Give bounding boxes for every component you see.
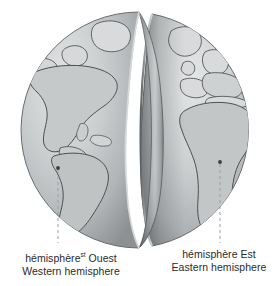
western-label-french: hémisphèrest Ouest [2,248,140,265]
western-hemisphere-marker [56,166,60,170]
western-label-french-suffix: Ouest [89,252,117,264]
landmass-greenland-west [91,21,130,52]
eastern-label-french: hémisphère Est [160,248,278,261]
split-globe-figure: hémisphèrest Ouest Western hemisphere hé… [0,0,279,286]
western-label-french-prefix: hémisphère [25,252,80,264]
globe-illustration [0,0,279,286]
western-hemisphere-label: hémisphèrest Ouest Western hemisphere [2,248,140,278]
western-hemisphere [21,12,139,248]
landmass-scandinavia [202,50,228,75]
eastern-hemisphere-label: hémisphère Est Eastern hemisphere [160,248,278,274]
landmass-madagascar [247,167,258,184]
landmass-arctic-islands [62,46,87,67]
eastern-label-english: Eastern hemisphere [160,261,278,274]
western-label-superscript: st [81,251,86,258]
eastern-hemisphere-marker [218,160,222,164]
western-label-english: Western hemisphere [2,265,140,278]
hemisphere-labels: hémisphèrest Ouest Western hemisphere hé… [0,245,279,286]
